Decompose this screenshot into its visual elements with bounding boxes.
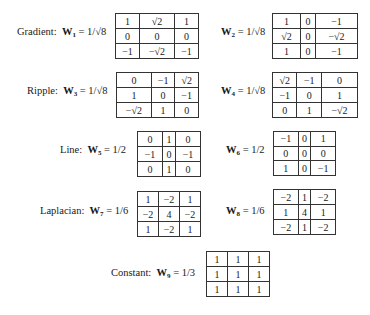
mask-label-w7: Laplacian: W7 = 1/6 <box>40 205 128 220</box>
cell: −1 <box>273 88 297 103</box>
cell: −1 <box>274 132 299 147</box>
cell: 1 <box>180 222 201 237</box>
cell: 0 <box>298 132 311 147</box>
cell: 1 <box>207 282 228 297</box>
mask-label-w5: Line: W5 = 1/2 <box>60 144 126 159</box>
mask-label-w6: W6 = 1/2 <box>226 144 265 159</box>
mask-name: Laplacian <box>40 205 81 216</box>
cell: 4 <box>159 207 180 222</box>
cell: 0 <box>116 29 140 44</box>
mask-coefficient: 1/2 <box>251 144 264 155</box>
mask-grid-w8: −21−2 141 −21−2 <box>273 189 336 235</box>
cell: 1 <box>163 132 176 147</box>
cell: −2 <box>311 220 336 235</box>
cell: 1 <box>311 132 336 147</box>
cell: −2 <box>159 222 180 237</box>
cell: 4 <box>298 205 311 220</box>
cell: 1 <box>207 252 228 267</box>
cell: 0 <box>139 29 174 44</box>
cell: 0 <box>274 146 299 161</box>
cell: 1 <box>207 267 228 282</box>
cell: −2 <box>274 220 299 235</box>
cell: 0 <box>138 132 163 147</box>
cell: 0 <box>273 103 297 118</box>
cell: −2 <box>311 190 336 205</box>
cell: 1 <box>228 252 249 267</box>
cell: −√2 <box>315 29 357 44</box>
cell: −√2 <box>321 103 357 118</box>
cell: 1 <box>175 14 199 29</box>
mask-grid-w9: 111 111 111 <box>206 251 270 297</box>
cell: 1 <box>163 162 176 177</box>
mask-name: Line <box>60 144 79 155</box>
cell: −1 <box>116 44 140 59</box>
cell: √2 <box>175 73 199 88</box>
mask-label-w8: W8 = 1/6 <box>226 205 265 220</box>
cell: 1 <box>273 14 301 29</box>
cell: −1 <box>175 147 200 162</box>
mask-coefficient: 1/√8 <box>246 85 265 96</box>
cell: 0 <box>297 88 321 103</box>
cell: 1 <box>273 44 301 59</box>
cell: −1 <box>175 44 199 59</box>
cell: 0 <box>321 73 357 88</box>
cell: 0 <box>163 147 176 162</box>
mask-coefficient: 1/6 <box>251 205 264 216</box>
cell: 1 <box>138 222 159 237</box>
cell: 0 <box>301 29 316 44</box>
cell: 1 <box>116 14 140 29</box>
cell: 0 <box>138 162 163 177</box>
cell: −1 <box>297 73 321 88</box>
cell: 0 <box>151 88 175 103</box>
cell: 1 <box>117 88 152 103</box>
cell: √2 <box>273 29 301 44</box>
cell: 1 <box>321 88 357 103</box>
mask-name: Constant <box>111 267 148 278</box>
mask-coefficient: 1/√8 <box>246 26 265 37</box>
cell: −√2 <box>117 103 152 118</box>
mask-grid-w1: 1√21 000 −1−√2−1 <box>115 13 199 59</box>
mask-label-w9: Constant: W9 = 1/3 <box>111 267 195 282</box>
mask-grid-w5: 010 −10−1 010 <box>137 131 201 177</box>
cell: 1 <box>249 252 270 267</box>
mask-coefficient: 1/2 <box>113 144 126 155</box>
cell: −1 <box>315 44 357 59</box>
cell: √2 <box>273 73 297 88</box>
mask-grid-w3: 0−1√2 10−1 −√210 <box>116 72 199 118</box>
cell: 1 <box>298 190 311 205</box>
cell: 0 <box>301 14 316 29</box>
mask-grid-w4: √2−10 −101 01−√2 <box>272 72 358 118</box>
mask-label-w3: Ripple: W3 = 1/√8 <box>27 85 108 100</box>
cell: 0 <box>175 162 200 177</box>
mask-coefficient: 1/√8 <box>87 26 106 37</box>
cell: 1 <box>180 192 201 207</box>
cell: 1 <box>249 282 270 297</box>
cell: −1 <box>138 147 163 162</box>
mask-grid-w7: 1−21 −24−2 1−21 <box>137 191 201 237</box>
cell: 0 <box>298 146 311 161</box>
cell: 0 <box>301 44 316 59</box>
cell: 0 <box>298 161 311 176</box>
mask-grid-w2: 10−1 √20−√2 10−1 <box>272 13 358 59</box>
mask-label-w1: Gradient: W1 = 1/√8 <box>17 26 106 41</box>
mask-name: Gradient <box>17 26 54 37</box>
cell: 1 <box>274 161 299 176</box>
cell: −2 <box>138 207 159 222</box>
cell: 0 <box>175 103 199 118</box>
cell: 1 <box>249 267 270 282</box>
mask-coefficient: 1/3 <box>182 267 195 278</box>
cell: −1 <box>151 73 175 88</box>
mask-coefficient: 1/6 <box>115 205 128 216</box>
cell: 1 <box>151 103 175 118</box>
cell: √2 <box>139 14 174 29</box>
cell: 1 <box>298 220 311 235</box>
cell: 0 <box>117 73 152 88</box>
cell: 0 <box>175 132 200 147</box>
cell: 1 <box>297 103 321 118</box>
mask-name: Ripple <box>27 85 55 96</box>
cell: −1 <box>175 88 199 103</box>
mask-coefficient: 1/√8 <box>88 85 107 96</box>
mask-label-w2: W2 = 1/√8 <box>221 26 265 41</box>
cell: 1 <box>138 192 159 207</box>
cell: −1 <box>311 161 336 176</box>
